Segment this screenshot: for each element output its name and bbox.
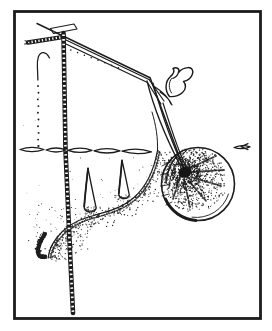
engraving-illustration — [0, 0, 272, 331]
illustration-page — [0, 0, 272, 331]
paper-background — [0, 0, 272, 331]
stippled-ball — [161, 148, 234, 221]
